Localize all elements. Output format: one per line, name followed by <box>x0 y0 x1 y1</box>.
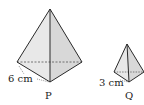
pyramid-q-edge-label: 3 cm <box>99 77 124 88</box>
pyramid-p-left-face <box>17 9 50 82</box>
pyramid-p-right-face <box>50 9 82 82</box>
pyramid-p-name-label: P <box>45 90 52 101</box>
pyramid-p-edge-label: 6 cm <box>8 73 33 84</box>
pyramids-diagram: 6 cm P 3 cm Q <box>0 0 144 105</box>
pyramid-p: 6 cm P <box>8 9 82 101</box>
pyramid-q-right-face <box>127 44 144 82</box>
pyramid-q-name-label: Q <box>125 90 133 101</box>
pyramid-q: 3 cm Q <box>99 44 144 101</box>
